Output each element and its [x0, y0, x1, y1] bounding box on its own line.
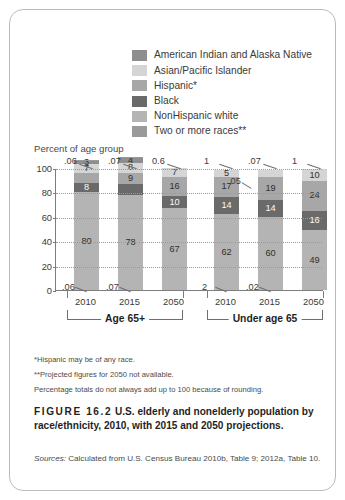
bar-segment: 19	[258, 177, 283, 200]
bar-segment-value: 60	[265, 249, 275, 258]
figure-caption: FIGURE 16.2 U.S. elderly and nonelderly …	[34, 405, 322, 434]
x-axis-tick-label: 2015	[110, 296, 150, 307]
group-brackets: Age 65+Under age 65	[55, 310, 323, 334]
bar-segment-value: 67	[169, 245, 179, 254]
bottom-callout-label: .06	[62, 282, 75, 292]
bar-segment: 49	[302, 230, 327, 290]
x-axis-tick-label: 2050	[294, 296, 334, 307]
y-axis-tick-mark	[53, 218, 57, 219]
x-axis-tick-label: 2050	[154, 296, 194, 307]
stacked-bar: 6214175	[214, 169, 239, 290]
legend-item: Black	[132, 94, 337, 109]
legend-item-label: NonHispanic white	[154, 111, 238, 121]
figure-number: FIGURE 16.2	[34, 406, 112, 417]
top-callout-label: 0.6	[152, 156, 165, 166]
y-axis-tick-mark	[53, 267, 57, 268]
group-edge-tick	[67, 291, 68, 298]
y-axis-tick-label: 100	[36, 164, 52, 174]
bar-segment-value: 10	[169, 198, 179, 207]
bar-segment: 67	[162, 208, 187, 290]
bar-segment: 24	[302, 181, 327, 210]
legend-item: Two or more races**	[132, 124, 337, 139]
figure-notes: *Hispanic may be of any race.**Projected…	[34, 353, 324, 397]
figure-note: **Projected figures for 2050 not availab…	[34, 368, 324, 383]
bar-segment: 16	[302, 211, 327, 231]
legend-swatch-icon	[132, 111, 147, 122]
bar-segment: 14	[214, 197, 239, 214]
inline-callout-label: .05	[228, 176, 241, 186]
bar-segment-value: 80	[81, 237, 91, 246]
bar-segment: 10	[302, 169, 327, 181]
figure-note: Percentage totals do not always add up t…	[34, 383, 324, 398]
bar-segment-value: 19	[265, 184, 275, 193]
bottom-callout-label: .07	[106, 282, 119, 292]
legend-swatch-icon	[132, 50, 147, 61]
legend-item: Asian/Pacific Islander	[132, 63, 337, 78]
bar-layer: 80873789846710167621417560141949162410	[56, 169, 322, 290]
stacked-bar: 78984	[118, 169, 143, 290]
gridline	[56, 193, 322, 194]
bar-segment-value: 14	[265, 204, 275, 213]
group-bracket: Under age 65	[207, 310, 323, 326]
bracket-tick	[207, 310, 208, 319]
legend-item: Hispanic*	[132, 78, 337, 93]
y-axis-tick-label: 20	[42, 262, 52, 272]
bottom-callout-label: .02	[246, 282, 259, 292]
x-axis-tick-label: 2010	[66, 296, 106, 307]
sources-text: Calculated from U.S. Census Bureau 2010b…	[68, 454, 320, 463]
plot-area: 80873789846710167621417560141949162410 0…	[55, 169, 323, 291]
chart-legend: American Indian and Alaska NativeAsian/P…	[132, 48, 337, 139]
bar-segment: 10	[162, 196, 187, 208]
legend-item: American Indian and Alaska Native	[132, 48, 337, 63]
bar-segment-value: 62	[221, 248, 231, 257]
y-axis-tick-label: 0	[47, 286, 52, 296]
bar-segment	[118, 157, 143, 158]
y-axis-tick-label: 40	[42, 237, 52, 247]
bar-segment-value: 9	[128, 174, 133, 183]
y-axis-tick-mark	[53, 193, 57, 194]
group-label: Under age 65	[229, 313, 302, 324]
bar-segment: 8	[74, 183, 99, 193]
stacked-bar: 601419	[258, 169, 283, 290]
sources-label: Sources:	[34, 454, 66, 463]
group-label: Age 65+	[101, 313, 149, 324]
bar-segment: 4	[118, 158, 143, 163]
group-edge-tick	[183, 291, 184, 298]
bracket-tick	[182, 310, 183, 319]
y-axis-tick-label: 80	[42, 188, 52, 198]
bar-segment: 62	[214, 214, 239, 290]
bar-segment: 14	[258, 200, 283, 217]
bar-segment	[74, 160, 99, 161]
legend-item-label: Black	[154, 96, 179, 106]
x-axis-tick-label: 2010	[206, 296, 246, 307]
y-axis-tick-mark	[53, 242, 57, 243]
bar-segment-value: 10	[309, 171, 319, 180]
bracket-tick	[322, 310, 323, 319]
legend-swatch-icon	[132, 65, 147, 76]
legend-item: NonHispanic white	[132, 109, 337, 124]
y-axis-tick-mark	[53, 169, 57, 170]
top-callout-label: 1	[292, 156, 297, 166]
legend-item-label: American Indian and Alaska Native	[154, 50, 312, 60]
bar-segment-value: 16	[169, 182, 179, 191]
figure-card: American Indian and Alaska NativeAsian/P…	[9, 9, 336, 491]
top-callout-label: .06	[64, 156, 77, 166]
top-callout-label: .07	[108, 156, 121, 166]
figure-sources: Sources: Calculated from U.S. Census Bur…	[34, 453, 322, 465]
legend-item-label: Hispanic*	[154, 81, 197, 91]
bracket-tick	[67, 310, 68, 319]
bar-segment	[258, 170, 283, 176]
legend-swatch-icon	[132, 126, 147, 137]
bar-segment: 60	[258, 217, 283, 290]
stacked-bar: 6710167	[162, 169, 187, 290]
bar-segment: 3	[74, 161, 99, 165]
legend-item-label: Asian/Pacific Islander	[154, 66, 251, 76]
group-edge-tick	[207, 291, 208, 298]
y-axis-title: Percent of age group	[34, 143, 124, 154]
bar-segment-value: 14	[221, 201, 231, 210]
gridline	[56, 242, 322, 243]
group-edge-tick	[323, 291, 324, 298]
y-axis-tick-mark	[53, 291, 57, 292]
gridline	[56, 267, 322, 268]
gridline	[56, 169, 322, 170]
